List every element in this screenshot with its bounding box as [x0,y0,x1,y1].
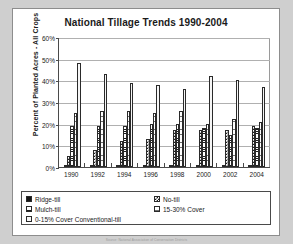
x-axis-tick-label: 1992 [85,171,112,178]
legend-item-15-30-cover: 15-30% Cover [154,206,205,213]
bar [130,83,133,168]
legend-swatch-icon [26,206,32,212]
x-axis-tick-label: 1994 [111,171,138,178]
plot-area: 0%10%20%30%40%50%60% [58,38,270,168]
chart-legend: Ridge-till No-till Mulch-till 15-30% Cov… [21,191,271,225]
x-axis-tick-label: 2000 [191,171,218,178]
x-axis-tick-label: 2002 [217,171,244,178]
legend-item-mulch-till: Mulch-till [26,206,154,213]
legend-swatch-icon [154,206,160,212]
bar-group [59,38,85,167]
legend-label: 15-30% Cover [163,206,205,213]
y-axis-tick-label: 10% [42,143,55,150]
legend-label: Mulch-till [35,206,61,213]
bar [156,85,159,167]
y-axis-tickmark [56,168,59,169]
bar-group [217,38,243,167]
x-axis-tick-label: 1996 [138,171,165,178]
x-axis-tick-label: 1998 [164,171,191,178]
bar-group [191,38,217,167]
y-axis-tick-label: 30% [42,100,55,107]
legend-label: Ridge-till [35,196,60,203]
source-note: Source: National Association of Conserva… [0,238,293,242]
x-axis-tick-label: 2004 [244,171,271,178]
bar [236,80,239,167]
bar-group [112,38,138,167]
legend-item-ridge-till: Ridge-till [26,196,154,203]
y-axis-title: Percent of Planted Acres - All Crops [32,9,39,141]
x-axis-tick-labels: 19901992199419961998200020022004 [58,171,270,178]
bar-group [85,38,111,167]
bar-group [138,38,164,167]
y-axis-tick-label: 40% [42,78,55,85]
chart-title: National Tillage Trends 1990-2004 [13,17,279,28]
y-axis-tick-label: 0% [46,165,55,172]
x-axis-tick-label: 1990 [58,171,85,178]
bar [77,63,80,167]
legend-swatch-icon [26,196,32,202]
y-axis-tick-label: 60% [42,35,55,42]
bar [183,89,186,167]
legend-swatch-icon [26,216,32,222]
legend-item-no-till: No-till [154,196,180,203]
chart-figure: National Tillage Trends 1990-2004 Percen… [12,8,280,236]
bar-groups [59,38,270,167]
bar-group [244,38,270,167]
bar [104,74,107,167]
legend-swatch-icon [154,196,160,202]
y-axis-tick-label: 20% [42,121,55,128]
legend-label: No-till [163,196,180,203]
legend-label: 0-15% Cover Conventional-till [35,216,121,223]
legend-item-0-15-cover-conventional-till: 0-15% Cover Conventional-till [26,216,121,223]
y-axis-tick-label: 50% [42,56,55,63]
bar-group [165,38,191,167]
bar [262,87,265,167]
bar [209,76,212,167]
